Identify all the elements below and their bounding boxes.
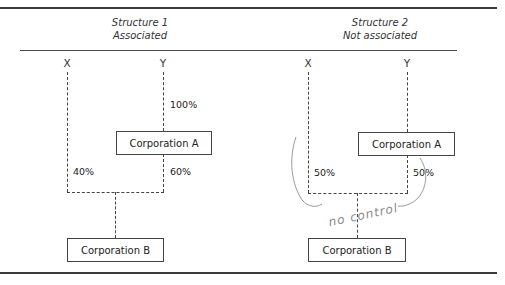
structure-1-corporation-b: Corporation B (67, 238, 164, 262)
structure-1-party-x: X (63, 57, 70, 69)
structure-1-x-pct: 40% (73, 166, 94, 177)
structure-2-party-y: Y (404, 57, 410, 69)
structure-1-corporation-a: Corporation A (116, 131, 212, 155)
structure-2-x-pct: 50% (314, 167, 335, 178)
handwritten-annotation: no control (327, 201, 399, 229)
structure-2-a-pct: 50% (413, 167, 434, 178)
structure-2-title: Structure 2 (300, 16, 460, 29)
structure-1-subtitle: Associated (60, 29, 220, 42)
structure-2-header: Structure 2 Not associated (300, 16, 460, 42)
structure-1-party-y: Y (160, 57, 166, 69)
structure-1-b-line (115, 192, 116, 238)
structure-2-corporation-b: Corporation B (308, 238, 406, 262)
structure-1-a-pct: 60% (170, 166, 191, 177)
structure-1-y-to-a-pct: 100% (170, 99, 197, 110)
structure-1-a-line (163, 154, 164, 192)
structure-2-corporation-a: Corporation A (358, 132, 455, 156)
structure-1-y-line (163, 72, 164, 131)
top-rule (0, 7, 497, 9)
structure-2-connector (308, 193, 408, 194)
header-rule (20, 50, 457, 51)
structure-1-x-line (67, 72, 68, 192)
structure-1-header: Structure 1 Associated (60, 16, 220, 42)
structure-2-a-line (407, 155, 408, 193)
structure-2-party-x: X (304, 57, 311, 69)
structure-1-title: Structure 1 (60, 16, 220, 29)
bottom-rule (0, 272, 497, 274)
structure-2-x-line (308, 72, 309, 193)
structure-2-y-line (407, 72, 408, 132)
structure-2-subtitle: Not associated (300, 29, 460, 42)
